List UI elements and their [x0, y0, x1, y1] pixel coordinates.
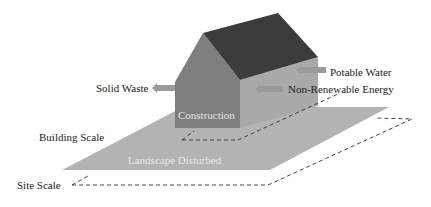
- building-scale-label: Building Scale: [39, 131, 104, 143]
- construction-label: Construction: [178, 109, 235, 121]
- landscape-disturbed-label: Landscape Disturbed: [128, 154, 222, 166]
- site-scale-label: Site Scale: [17, 179, 61, 191]
- non-renewable-energy-label: Non-Renewable Energy: [288, 83, 394, 95]
- potable-water-label: Potable Water: [330, 66, 392, 78]
- site-scale-leader: [72, 176, 88, 185]
- building-site-diagram: Solid Waste Potable Water Non-Renewable …: [0, 0, 431, 207]
- solid-waste-label: Solid Waste: [96, 82, 149, 94]
- solid-waste-arrow: [152, 83, 175, 93]
